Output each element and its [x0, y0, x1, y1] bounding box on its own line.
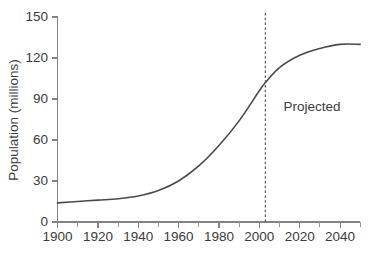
x-tick-label-2020: 2020: [285, 229, 315, 244]
y-axis-ticks: [52, 17, 58, 222]
y-tick-label-90: 90: [33, 91, 48, 106]
population-line-chart: Population (millions) 150 120 90 60 30 0: [0, 0, 370, 256]
chart-canvas: Population (millions) 150 120 90 60 30 0: [0, 0, 370, 256]
y-axis-tick-labels: 150 120 90 60 30 0: [25, 9, 48, 229]
x-tick-label-2040: 2040: [325, 229, 355, 244]
y-tick-label-30: 30: [33, 173, 48, 188]
x-tick-label-1960: 1960: [164, 229, 194, 244]
y-tick-label-150: 150: [25, 9, 48, 24]
x-axis-tick-labels: 1900 1920 1940 1960 1980 2000 2020 2040: [42, 229, 355, 244]
y-axis-title: Population (millions): [6, 59, 21, 181]
y-tick-label-60: 60: [33, 132, 48, 147]
x-tick-label-1940: 1940: [123, 229, 153, 244]
y-tick-label-120: 120: [25, 50, 48, 65]
projected-annotation-label: Projected: [284, 99, 341, 114]
x-tick-label-1980: 1980: [204, 229, 234, 244]
x-tick-label-2000: 2000: [244, 229, 274, 244]
population-curve: [58, 44, 361, 203]
y-tick-label-0: 0: [40, 214, 48, 229]
x-tick-label-1900: 1900: [42, 229, 72, 244]
x-tick-label-1920: 1920: [83, 229, 113, 244]
